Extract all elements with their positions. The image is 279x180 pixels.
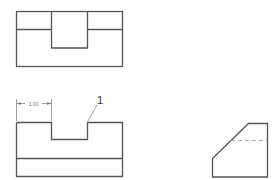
side-view (213, 124, 268, 178)
front-view: 1.00 1 (17, 94, 123, 177)
arrowhead-left-icon (17, 102, 21, 104)
top-view-outline (17, 12, 123, 67)
front-view-outline (17, 123, 123, 177)
top-view (17, 12, 123, 67)
orthographic-drawing: 1.00 1 (0, 0, 279, 180)
side-view-outline (213, 124, 268, 178)
callout-label: 1 (97, 94, 103, 106)
dimension-label: 1.00 (29, 101, 39, 107)
top-view-notch (52, 12, 88, 49)
callout-leader (88, 105, 97, 121)
arrowhead-right-icon (47, 102, 51, 104)
